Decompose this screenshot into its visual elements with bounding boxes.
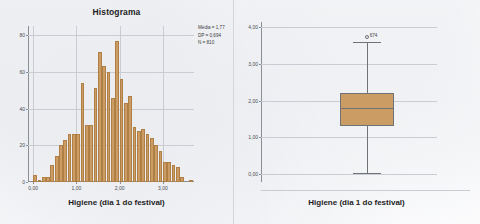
histogram-bar bbox=[180, 177, 184, 183]
y-tick-label: 40 bbox=[19, 106, 25, 112]
histogram-bar bbox=[59, 145, 63, 182]
histogram-bar bbox=[89, 125, 93, 182]
histogram-bar bbox=[137, 131, 141, 182]
y-tick-mark bbox=[26, 182, 28, 183]
y-tick-label: 60 bbox=[19, 69, 25, 75]
y-tick-label: 20 bbox=[19, 142, 25, 148]
histogram-bar bbox=[128, 96, 132, 182]
histogram-bar bbox=[159, 151, 163, 182]
histogram-bar bbox=[46, 177, 50, 183]
histogram-bar bbox=[115, 41, 119, 182]
y-tick-label: 4,00 bbox=[248, 24, 258, 30]
gridline-horizontal bbox=[261, 174, 437, 175]
y-tick-mark bbox=[259, 27, 261, 28]
histogram-bar bbox=[33, 175, 37, 182]
histogram-bar bbox=[167, 162, 171, 182]
histogram-bar bbox=[68, 134, 72, 182]
whisker-cap-upper bbox=[353, 42, 381, 43]
histogram-bar bbox=[38, 180, 42, 182]
boxplot-y-axis bbox=[261, 22, 262, 182]
histogram-bar bbox=[50, 165, 54, 182]
boxplot-x-axis-label: Higiene (dia 1 do festival) bbox=[233, 198, 480, 207]
y-tick-label: 0,00 bbox=[248, 171, 258, 177]
y-tick-label: 80 bbox=[19, 32, 25, 38]
y-tick-mark bbox=[259, 101, 261, 102]
x-tick-label: 0,00 bbox=[28, 185, 38, 191]
outlier-label: 674 bbox=[370, 33, 378, 38]
x-tick-label: 1,00 bbox=[72, 185, 82, 191]
y-tick-label: 1,00 bbox=[248, 134, 258, 140]
histogram-bar bbox=[163, 162, 167, 182]
x-tick-label: 3,00 bbox=[158, 185, 168, 191]
y-tick-mark bbox=[259, 174, 261, 175]
y-tick-label: 3,00 bbox=[248, 61, 258, 67]
y-tick-label: 2,00 bbox=[248, 98, 258, 104]
y-tick-label: 0 bbox=[22, 179, 25, 185]
histogram-bars bbox=[28, 26, 194, 182]
gridline-horizontal bbox=[261, 27, 437, 28]
x-tick-label: 2,00 bbox=[115, 185, 125, 191]
histogram-bar bbox=[176, 167, 180, 182]
histogram-bar bbox=[63, 140, 67, 182]
histogram-bar bbox=[81, 83, 85, 182]
histogram-panel: Histograma 020406080 0,001,002,003,00 Mé… bbox=[0, 0, 233, 224]
histogram-x-axis-label: Higiene (dia 1 do festival) bbox=[0, 198, 233, 207]
histogram-title: Histograma bbox=[0, 7, 233, 17]
histogram-bar bbox=[72, 134, 76, 182]
histogram-bar bbox=[146, 134, 150, 182]
stat-sd: DP = 0,694 bbox=[198, 32, 225, 40]
whisker-cap-lower bbox=[353, 173, 381, 174]
histogram-bar bbox=[94, 88, 98, 182]
histogram-plot-area: 020406080 0,001,002,003,00 bbox=[28, 26, 194, 182]
histogram-stats-box: Média = 1,77 DP = 0,694 N = 810 bbox=[198, 24, 225, 47]
histogram-bar bbox=[111, 98, 115, 182]
y-tick-mark bbox=[259, 137, 261, 138]
histogram-bar bbox=[172, 165, 176, 182]
histogram-bar bbox=[150, 138, 154, 182]
gridline-horizontal bbox=[261, 137, 437, 138]
histogram-bar bbox=[42, 177, 46, 183]
histogram-bar bbox=[85, 125, 89, 182]
x-tick-mark bbox=[76, 182, 77, 184]
y-tick-mark bbox=[259, 64, 261, 65]
figure-root: Histograma 020406080 0,001,002,003,00 Mé… bbox=[0, 0, 480, 224]
boxplot-panel: 0,001,002,003,004,00 674 Higiene (dia 1 … bbox=[233, 0, 480, 224]
histogram-bar bbox=[189, 180, 193, 182]
box-median-line bbox=[340, 108, 394, 109]
stat-n: N = 810 bbox=[198, 39, 225, 47]
x-tick-mark bbox=[33, 182, 34, 184]
boxplot-plot-area: 0,001,002,003,004,00 674 bbox=[261, 22, 437, 182]
x-tick-mark bbox=[163, 182, 164, 184]
x-tick-mark bbox=[120, 182, 121, 184]
histogram-bar bbox=[120, 79, 124, 182]
histogram-bar bbox=[141, 129, 145, 182]
histogram-bar bbox=[124, 103, 128, 182]
histogram-bar bbox=[102, 66, 106, 182]
box-iqr-rect bbox=[340, 93, 394, 126]
histogram-bar bbox=[154, 145, 158, 182]
outlier-marker bbox=[365, 35, 369, 39]
histogram-bar bbox=[133, 127, 137, 182]
boxplot-baseline bbox=[261, 190, 470, 191]
histogram-bar bbox=[107, 72, 111, 182]
histogram-bar bbox=[76, 134, 80, 182]
gridline-horizontal bbox=[261, 64, 437, 65]
histogram-bar bbox=[55, 156, 59, 182]
stat-mean: Média = 1,77 bbox=[198, 24, 225, 32]
histogram-bar bbox=[98, 52, 102, 182]
